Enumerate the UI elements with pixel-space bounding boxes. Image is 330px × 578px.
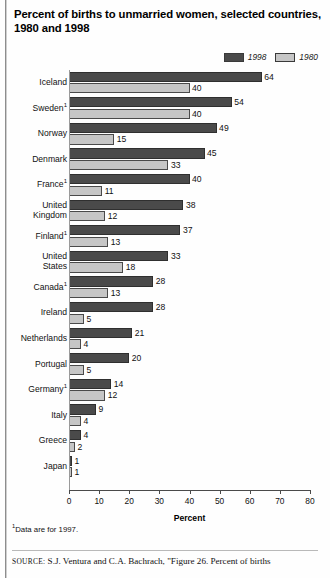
x-axis-tick-label: 80: [305, 496, 314, 506]
bar-row: Sweden15440: [0, 96, 330, 122]
bar-value-label: 13: [111, 237, 121, 247]
bar-1998: [69, 302, 153, 312]
bar-1980: [69, 134, 114, 144]
bar-group-1980: 11: [69, 186, 114, 196]
bar-1980: [69, 186, 102, 196]
bar-pair: 4011: [69, 172, 330, 198]
bar-pair: 1412: [69, 377, 330, 403]
x-axis-tick: [190, 490, 191, 494]
bar-group-1980: 15: [69, 134, 126, 144]
x-axis-tick-label: 20: [125, 496, 134, 506]
legend-item-1998: 1998: [224, 52, 267, 62]
bar-group-1980: 1: [69, 467, 79, 477]
category-label: Finland1: [5, 224, 67, 250]
bar-1980: [69, 314, 84, 324]
x-axis-tick-label: 70: [275, 496, 284, 506]
bar-value-label: 5: [87, 365, 92, 375]
bar-group-1998: 4: [69, 430, 88, 440]
bar-1998: [69, 200, 183, 210]
bar-group-1998: 20: [69, 353, 141, 363]
bar-group-1998: 28: [69, 302, 165, 312]
bar-1980: [69, 288, 108, 298]
category-label: UnitedStates: [5, 249, 67, 275]
category-label: Norway: [5, 121, 67, 147]
chart-legend: 19981980: [224, 52, 318, 62]
bar-row: Netherlands214: [0, 326, 330, 352]
bar-pair: 4915: [69, 121, 330, 147]
source-text: S.J. Ventura and C.A. Bachrach, "Figure …: [45, 556, 270, 566]
bar-value-label: 45: [207, 148, 217, 158]
x-axis-tick: [280, 490, 281, 494]
x-axis-tick: [159, 490, 160, 494]
bar-group-1980: 4: [69, 416, 88, 426]
bar-1980: [69, 262, 123, 272]
bar-group-1980: 18: [69, 262, 135, 272]
category-label: Sweden1: [5, 96, 67, 122]
category-label: Canada1: [5, 275, 67, 301]
chart-title-line1: Percent of births to unmarried women, se…: [14, 8, 321, 20]
bar-pair: 214: [69, 326, 330, 352]
bar-value-label: 54: [234, 97, 244, 107]
bar-row: Norway4915: [0, 121, 330, 147]
category-label: Portugal: [5, 352, 67, 378]
bar-value-label: 1: [75, 456, 80, 466]
bar-group-1998: 40: [69, 174, 202, 184]
bar-group-1998: 1: [69, 456, 79, 466]
category-label: Germany1: [5, 377, 67, 403]
category-label: Netherlands: [5, 326, 67, 352]
source-label: SOURCE:: [12, 557, 45, 566]
x-axis-title: Percent: [69, 513, 310, 523]
x-axis-tick-label: 40: [185, 496, 194, 506]
category-label: Denmark: [5, 147, 67, 173]
category-footnote-marker: 1: [64, 383, 67, 389]
bar-group-1998: 33: [69, 251, 180, 261]
bar-value-label: 2: [78, 442, 83, 452]
bar-group-1980: 5: [69, 365, 91, 375]
bar-row: Germany11412: [0, 377, 330, 403]
bar-pair: 3713: [69, 224, 330, 250]
chart-title-line2: 1980 and 1998: [14, 22, 322, 36]
bar-1998: [69, 174, 190, 184]
source-note: SOURCE: S.J. Ventura and C.A. Bachrach, …: [12, 556, 320, 568]
category-footnote-marker: 1: [64, 230, 67, 236]
bar-rows: Iceland6440Sweden15440Norway4915Denmark4…: [0, 70, 330, 480]
y-axis-line: [69, 70, 70, 490]
bar-group-1998: 49: [69, 123, 229, 133]
bar-1998: [69, 148, 205, 158]
chart-footnote: 1Data are for 1997.: [12, 525, 78, 534]
bar-pair: 6440: [69, 70, 330, 96]
category-label: Italy: [5, 403, 67, 429]
bar-row: Iceland6440: [0, 70, 330, 96]
bar-1980: [69, 211, 105, 221]
bar-value-label: 33: [171, 251, 181, 261]
bar-value-label: 40: [192, 174, 202, 184]
legend-label: 1980: [299, 52, 318, 62]
bar-1998: [69, 97, 232, 107]
x-axis-tick: [69, 490, 70, 494]
bar-value-label: 4: [84, 339, 89, 349]
bar-group-1980: 4: [69, 339, 88, 349]
bar-row: UnitedKingdom3812: [0, 198, 330, 224]
bar-group-1998: 21: [69, 328, 144, 338]
bar-value-label: 18: [126, 262, 136, 272]
bar-1980: [69, 365, 84, 375]
bar-1998: [69, 404, 96, 414]
bar-pair: 2813: [69, 275, 330, 301]
x-axis-tick-label: 10: [94, 496, 103, 506]
bar-group-1980: 12: [69, 390, 117, 400]
bar-1980: [69, 390, 105, 400]
bar-group-1998: 38: [69, 200, 196, 210]
footnote-text: Data are for 1997.: [15, 525, 78, 534]
x-axis-tick: [220, 490, 221, 494]
legend-swatch-icon: [275, 53, 295, 62]
bar-1998: [69, 225, 180, 235]
bar-1980: [69, 339, 81, 349]
bar-pair: 11: [69, 454, 330, 480]
bar-value-label: 12: [108, 211, 118, 221]
bar-1998: [69, 379, 111, 389]
category-label: Japan: [5, 454, 67, 480]
bar-row: Denmark4533: [0, 147, 330, 173]
bar-value-label: 37: [183, 225, 193, 235]
bar-value-label: 40: [192, 83, 202, 93]
bar-value-label: 5: [87, 314, 92, 324]
